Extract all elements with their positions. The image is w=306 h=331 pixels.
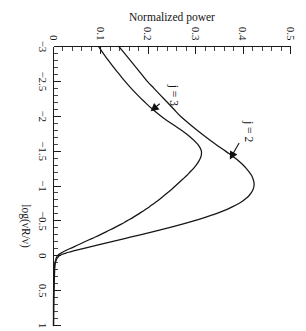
curve-j2 xyxy=(53,46,254,325)
y-tick-label: 0.4 xyxy=(237,26,249,40)
series-curves xyxy=(53,46,254,325)
y-tick-label: 0 xyxy=(47,35,59,41)
series-label: j = 2 xyxy=(242,120,255,142)
series-annotations: j = 2j = 3 xyxy=(150,83,255,159)
x-tick-label: −1 xyxy=(36,180,48,192)
x-tick-label: −2.5 xyxy=(36,71,48,91)
line-chart: −3−2.5−2−1.5−1−0.500.51 00.10.20.30.40.5… xyxy=(0,0,306,331)
y-axis-title: Normalized power xyxy=(129,10,215,23)
figure-page: −3−2.5−2−1.5−1−0.500.51 00.10.20.30.40.5… xyxy=(0,0,306,331)
y-tick-label: 0.3 xyxy=(189,26,201,40)
x-axis-title: log(νR/ν) xyxy=(18,204,31,248)
x-tick-label: 1 xyxy=(36,322,48,328)
x-axis-tick-labels: −3−2.5−2−1.5−1−0.500.51 xyxy=(36,40,48,328)
x-tick-label: 0 xyxy=(36,253,48,259)
x-tick-label: −1.5 xyxy=(36,141,48,161)
annotation-arrowhead xyxy=(229,150,237,159)
y-tick-label: 0.5 xyxy=(284,26,296,40)
annotation-leader-line xyxy=(233,142,239,153)
x-tick-label: 0.5 xyxy=(36,283,48,297)
y-tick-label: 0.2 xyxy=(142,26,154,40)
plot-area: −3−2.5−2−1.5−1−0.500.51 00.10.20.30.40.5… xyxy=(0,0,306,331)
rotated-figure-container: −3−2.5−2−1.5−1−0.500.51 00.10.20.30.40.5… xyxy=(0,0,306,331)
y-tick-label: 0.1 xyxy=(94,26,106,40)
series-label: j = 3 xyxy=(166,83,179,105)
x-tick-label: −0.5 xyxy=(36,210,48,230)
y-axis-tick-labels: 00.10.20.30.40.5 xyxy=(47,26,296,40)
annotation-arrowhead xyxy=(150,102,159,110)
x-tick-label: −3 xyxy=(36,40,48,52)
x-tick-label: −2 xyxy=(36,110,48,122)
